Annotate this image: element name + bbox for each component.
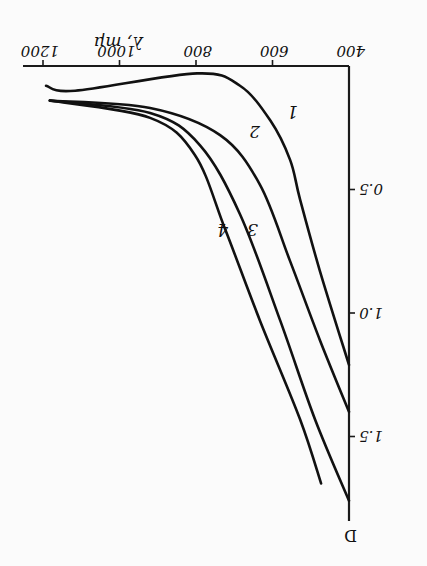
y-tick-label: 1.5 [359, 428, 383, 446]
x-axis-title: λ, mμ [94, 33, 143, 53]
axes [23, 60, 355, 521]
curve-1 [46, 73, 349, 365]
curve-label-4: 4 [217, 220, 228, 240]
y-axis-title: D [344, 526, 357, 545]
y-tick-label: 0.5 [359, 181, 383, 199]
x-tick-label: 600 [260, 42, 289, 60]
curve-4 [50, 101, 321, 484]
x-tick-label: 400 [336, 42, 365, 60]
curve-label-1: 1 [287, 102, 298, 122]
curves [46, 73, 349, 500]
x-tick-label: 800 [183, 42, 212, 60]
y-tick-label: 1.0 [359, 304, 383, 322]
curve-2 [50, 101, 349, 412]
x-tick-label: 1200 [21, 42, 59, 60]
curve-label-2: 2 [249, 122, 260, 142]
plot-area [0, 0, 427, 566]
chart: 400600800100012000.51.01.5λ, mμD1234 [0, 0, 427, 566]
curve-label-3: 3 [247, 220, 258, 240]
